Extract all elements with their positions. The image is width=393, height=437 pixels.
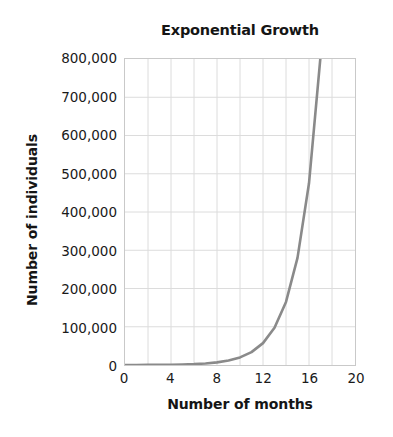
- x-axis-tick-label: 4: [150, 370, 190, 386]
- x-axis-tick-label: 12: [243, 370, 283, 386]
- x-axis-tick-label: 8: [197, 370, 237, 386]
- exponential-curve: [125, 59, 355, 365]
- page-title: Exponential Growth: [124, 22, 356, 38]
- x-axis-tick-label: 16: [290, 370, 330, 386]
- plot-area: [124, 58, 356, 366]
- x-axis-tick-label: 20: [336, 370, 376, 386]
- x-axis-title: Number of months: [124, 396, 356, 412]
- chart-figure: Exponential Growth Number of individuals…: [0, 0, 393, 437]
- y-axis-tick-label: 600,000: [7, 127, 117, 143]
- y-axis-tick-label: 700,000: [7, 89, 117, 105]
- y-axis-tick-label: 300,000: [7, 243, 117, 259]
- y-axis-tick-label: 500,000: [7, 166, 117, 182]
- y-axis-tick-label: 200,000: [7, 281, 117, 297]
- y-axis-tick-label: 0: [7, 358, 117, 374]
- x-axis-tick-label: 0: [104, 370, 144, 386]
- y-axis-tick-label: 100,000: [7, 320, 117, 336]
- y-axis-tick-label: 400,000: [7, 204, 117, 220]
- y-axis-tick-label: 800,000: [7, 50, 117, 66]
